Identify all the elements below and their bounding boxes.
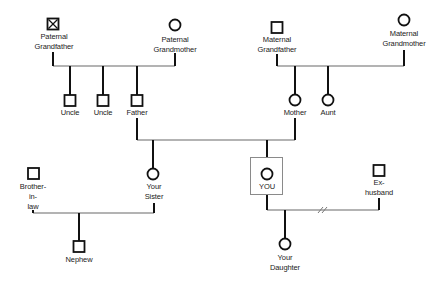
father-male-icon[interactable] xyxy=(132,95,143,106)
sister-label: Your Sister xyxy=(145,182,164,202)
label-line: Grandmother xyxy=(153,45,196,55)
label-line: law xyxy=(20,202,46,212)
uncle1-male-icon[interactable] xyxy=(65,95,76,106)
label-line: Ex- xyxy=(365,178,393,188)
uncle1-label: Uncle xyxy=(61,108,80,118)
label-line: Sister xyxy=(145,192,164,202)
nephew-label: Nephew xyxy=(66,255,93,265)
maternal-grandmother-label: Maternal Grandmother xyxy=(382,29,425,49)
label-line: Your xyxy=(270,253,300,263)
paternal-grandmother-female-icon[interactable] xyxy=(170,20,181,31)
uncle2-male-icon[interactable] xyxy=(98,95,109,106)
label-line: husband xyxy=(365,188,393,198)
mother-label: Mother xyxy=(284,108,307,118)
aunt-label: Aunt xyxy=(320,108,335,118)
maternal-grandfather-label: Maternal Grandfather xyxy=(258,35,297,55)
ex-husband-label: Ex- husband xyxy=(365,178,393,198)
label-line: in- xyxy=(20,192,46,202)
father-label: Father xyxy=(126,108,147,118)
paternal-grandfather-deceased-male-icon[interactable] xyxy=(48,19,59,30)
aunt-female-icon[interactable] xyxy=(323,95,334,106)
label-line: Grandfather xyxy=(258,45,297,55)
you-label: YOU xyxy=(259,182,275,192)
brother-in-law-label: Brother- in- law xyxy=(20,182,46,212)
maternal-grandfather-male-icon[interactable] xyxy=(272,22,283,33)
label-line: Paternal xyxy=(35,32,74,42)
maternal-grandmother-female-icon[interactable] xyxy=(399,15,410,26)
paternal-grandfather-label: Paternal Grandfather xyxy=(35,32,74,52)
label-line: Grandfather xyxy=(35,42,74,52)
daughter-female-icon[interactable] xyxy=(280,239,291,250)
nephew-male-icon[interactable] xyxy=(74,241,85,252)
label-line: Paternal xyxy=(153,35,196,45)
label-line: Maternal xyxy=(258,35,297,45)
daughter-label: Your Daughter xyxy=(270,253,300,273)
label-line: Grandmother xyxy=(382,39,425,49)
marriage-lines xyxy=(33,66,404,213)
sister-female-icon[interactable] xyxy=(148,169,159,180)
label-line: Your xyxy=(145,182,164,192)
ex-husband-male-icon[interactable] xyxy=(374,165,385,176)
label-line: Brother- xyxy=(20,182,46,192)
uncle2-label: Uncle xyxy=(94,108,113,118)
mother-female-icon[interactable] xyxy=(290,95,301,106)
paternal-grandmother-label: Paternal Grandmother xyxy=(153,35,196,55)
label-line: Maternal xyxy=(382,29,425,39)
label-line: Daughter xyxy=(270,263,300,273)
brother-in-law-male-icon[interactable] xyxy=(28,168,39,179)
